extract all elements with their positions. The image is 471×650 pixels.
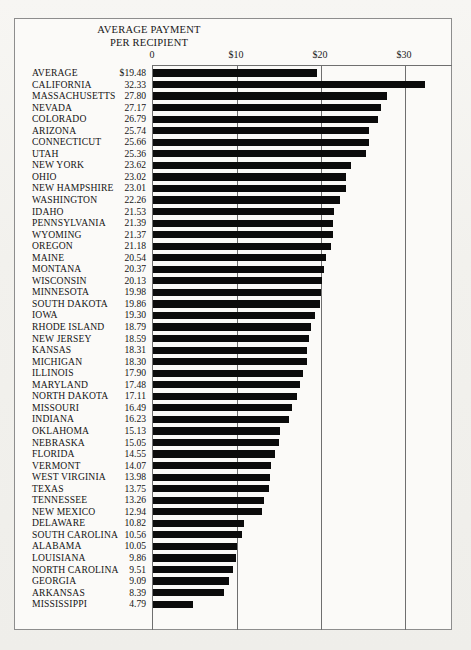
bar-row <box>153 114 452 126</box>
x-tick-label-20: $20 <box>313 49 328 60</box>
table-row: MASSACHUSETTS27.80 <box>15 90 152 102</box>
category-label: NEW MEXICO <box>32 506 95 518</box>
table-row: NEW HAMPSHIRE23.01 <box>15 182 152 194</box>
value-label: 19.30 <box>124 309 146 321</box>
table-row: CALIFORNIA32.33 <box>15 79 152 91</box>
value-label: 23.62 <box>124 159 146 171</box>
value-label: 17.48 <box>124 379 146 391</box>
value-label: 25.66 <box>124 136 146 148</box>
table-row: MONTANA20.37 <box>15 263 152 275</box>
category-label: UTAH <box>32 148 58 160</box>
bar-row <box>153 368 452 380</box>
category-label: NORTH CAROLINA <box>32 564 119 576</box>
bar-row <box>153 91 452 103</box>
table-row: WASHINGTON22.26 <box>15 194 152 206</box>
bar <box>153 335 309 342</box>
value-label: 13.98 <box>124 471 146 483</box>
bar <box>153 520 244 527</box>
category-label: WYOMING <box>32 229 82 241</box>
bar <box>153 589 224 596</box>
value-label: 9.51 <box>129 564 146 576</box>
category-label: COLORADO <box>32 113 87 125</box>
value-label: 10.56 <box>124 529 146 541</box>
bar-row <box>153 403 452 415</box>
value-label: 27.80 <box>124 90 146 102</box>
value-label: 32.33 <box>124 79 146 91</box>
value-label: 21.39 <box>124 217 146 229</box>
table-row: INDIANA16.23 <box>15 413 152 425</box>
table-row: SOUTH CAROLINA10.56 <box>15 529 152 541</box>
table-row: NORTH CAROLINA9.51 <box>15 564 152 576</box>
category-label: MISSISSIPPI <box>32 598 87 610</box>
bar-row <box>153 137 452 149</box>
bar-row <box>153 299 452 311</box>
bar <box>153 208 334 215</box>
table-row: COLORADO26.79 <box>15 113 152 125</box>
category-label: MONTANA <box>32 263 81 275</box>
value-label: 25.74 <box>124 125 146 137</box>
plot-area <box>152 65 452 630</box>
bar <box>153 196 340 203</box>
bar-row <box>153 241 452 253</box>
bar-row <box>153 426 452 438</box>
bar-row <box>153 195 452 207</box>
category-label: NEW JERSEY <box>32 333 92 345</box>
category-label: NEW YORK <box>32 159 84 171</box>
value-label: 4.79 <box>129 598 146 610</box>
bar <box>153 312 315 319</box>
category-label: IDAHO <box>32 206 64 218</box>
bar-row <box>153 310 452 322</box>
category-label: VERMONT <box>32 460 81 472</box>
bar-row <box>153 230 452 242</box>
bar-row <box>153 172 452 184</box>
value-label: 10.05 <box>124 540 146 552</box>
x-tick-label-30: $30 <box>397 49 412 60</box>
bar <box>153 508 262 515</box>
table-row: AVERAGE$19.48 <box>15 67 152 79</box>
table-row: NEW JERSEY18.59 <box>15 333 152 345</box>
bar-row <box>153 149 452 161</box>
bar <box>153 427 280 434</box>
bar-row <box>153 103 452 115</box>
bar-row <box>153 449 452 461</box>
bar-row <box>153 414 452 426</box>
bar-row <box>153 472 452 484</box>
category-label: OREGON <box>32 240 73 252</box>
category-label: MINNESOTA <box>32 286 89 298</box>
table-row: GEORGIA9.09 <box>15 575 152 587</box>
bar <box>153 173 346 180</box>
category-label: MISSOURI <box>32 402 79 414</box>
category-label: GEORGIA <box>32 575 76 587</box>
table-row: SOUTH DAKOTA19.86 <box>15 298 152 310</box>
value-label: 13.26 <box>124 494 146 506</box>
bar <box>153 81 425 88</box>
value-label: 18.79 <box>124 321 146 333</box>
value-label: 16.49 <box>124 402 146 414</box>
category-label: MICHIGAN <box>32 356 82 368</box>
table-row: FLORIDA14.55 <box>15 448 152 460</box>
table-row: LOUISIANA9.86 <box>15 552 152 564</box>
bar <box>153 220 333 227</box>
bar <box>153 485 269 492</box>
table-row: MICHIGAN18.30 <box>15 356 152 368</box>
bar-row <box>153 126 452 138</box>
bar-row <box>153 518 452 530</box>
category-label: MARYLAND <box>32 379 88 391</box>
bar <box>153 450 275 457</box>
bar <box>153 277 322 284</box>
bar <box>153 497 264 504</box>
category-label: INDIANA <box>32 413 74 425</box>
bar <box>153 104 381 111</box>
bar-row <box>153 380 452 392</box>
category-label: TENNESSEE <box>32 494 87 506</box>
bar-row <box>153 530 452 542</box>
bar-row <box>153 264 452 276</box>
bar <box>153 150 366 157</box>
category-label: RHODE ISLAND <box>32 321 104 333</box>
value-label: 17.90 <box>124 367 146 379</box>
bar-row <box>153 160 452 172</box>
value-label: 15.13 <box>124 425 146 437</box>
bar <box>153 127 369 134</box>
table-row: VERMONT14.07 <box>15 460 152 472</box>
bar <box>153 254 326 261</box>
